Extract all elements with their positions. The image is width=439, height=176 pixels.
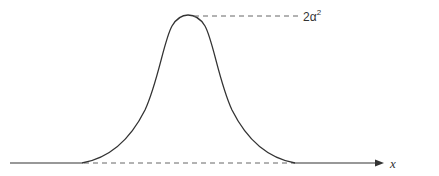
peak-label-base: 2α	[303, 10, 317, 24]
bell-curve	[82, 15, 295, 163]
bell-curve-diagram: x 2α2	[0, 0, 439, 176]
peak-label-sup: 2	[317, 8, 322, 17]
x-axis-arrow-icon	[375, 160, 384, 167]
peak-label: 2α2	[303, 8, 322, 24]
x-axis-label: x	[389, 156, 396, 171]
